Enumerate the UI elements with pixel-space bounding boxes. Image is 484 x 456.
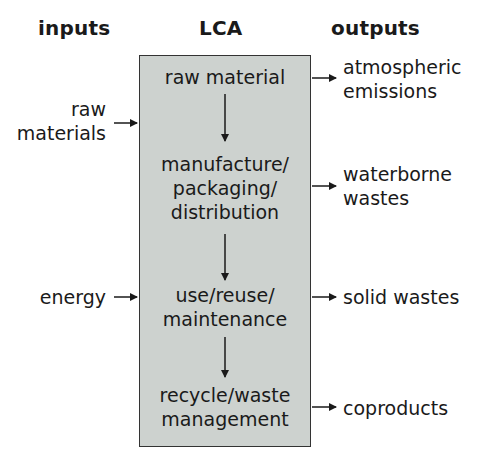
arrows-layer xyxy=(0,0,484,456)
